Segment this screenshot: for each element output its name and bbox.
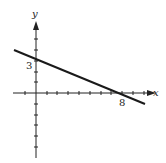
y-axis-label: y [31, 8, 38, 19]
x-intercept-label: 8 [119, 97, 125, 108]
y-intercept-label: 3 [26, 60, 32, 71]
chart: y x 3 8 [0, 0, 166, 163]
data-line [14, 50, 145, 104]
y-axis-arrow-icon [33, 21, 39, 30]
x-axis-label: x [153, 87, 159, 98]
